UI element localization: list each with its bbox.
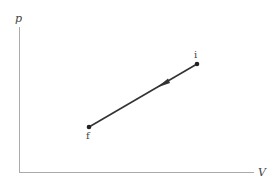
point-i-marker [195,62,200,67]
direction-arrow-icon [157,79,170,88]
pv-diagram: p V i f [0,0,280,181]
y-axis-label: p [15,12,22,25]
point-f-marker [87,125,92,130]
x-axis-label: V [258,166,267,179]
point-f-label: f [86,130,91,141]
process-line [89,64,197,127]
point-i-label: i [194,49,197,60]
diagram-canvas: p V i f [0,0,280,181]
